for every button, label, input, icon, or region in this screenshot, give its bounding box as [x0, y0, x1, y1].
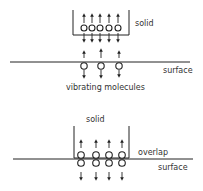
- vibrating-molecules-caption: vibrating molecules: [66, 83, 145, 92]
- overlap-label: overlap: [138, 148, 168, 157]
- top-solid-label: solid: [135, 19, 154, 28]
- bottom-solid-label: solid: [86, 115, 105, 124]
- bottom-arrows: [81, 141, 122, 179]
- top-solid-molecules: [81, 25, 121, 31]
- bottom-surface-label: surface: [158, 163, 188, 172]
- top-surface-label: surface: [163, 66, 193, 75]
- adhesion-diagram: solid surface vibrating molecules solid: [0, 0, 203, 191]
- top-surface-molecules: [81, 63, 122, 69]
